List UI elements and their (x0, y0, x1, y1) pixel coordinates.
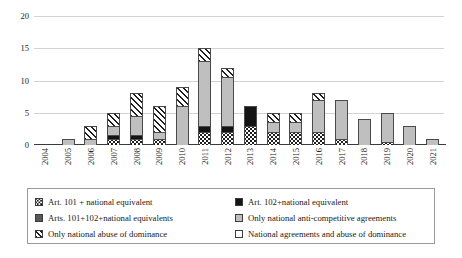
bar-segment (335, 100, 348, 139)
x-tick-slot: 2014 (262, 146, 285, 184)
stacked-bar[interactable] (198, 48, 211, 145)
bar-segment (381, 113, 394, 142)
bar-segment (267, 132, 280, 145)
x-axis-tick-label: 2015 (292, 148, 301, 165)
bar-slot-2012 (216, 16, 239, 145)
bar-segment (153, 132, 166, 138)
stacked-bar[interactable] (107, 113, 120, 145)
bar-segment (84, 126, 97, 139)
stacked-bar[interactable] (130, 93, 143, 145)
bar-segment (289, 113, 302, 123)
bar-slot-2004 (34, 16, 57, 145)
x-tick-slot: 2010 (171, 146, 194, 184)
bar-segment (335, 139, 348, 145)
bar-segment (84, 139, 97, 145)
bar-slot-2006 (80, 16, 103, 145)
legend-label: Only national abuse of dominance (48, 230, 167, 239)
legend-label: Only national anti-competitive agreement… (248, 214, 396, 223)
x-tick-slot: 2018 (353, 146, 376, 184)
legend-label: National agreements and abuse of dominan… (248, 230, 406, 239)
bar-slot-2008 (125, 16, 148, 145)
bar-segment (312, 93, 325, 99)
bar-slot-2015 (285, 16, 308, 145)
x-tick-slot: 2005 (57, 146, 80, 184)
legend-label: Arts. 101+102+national equivalents (48, 214, 173, 223)
stacked-bar[interactable] (403, 126, 416, 145)
bar-segment (198, 126, 211, 132)
bar-segment (107, 139, 120, 145)
legend-label: Art. 102+national equivalent (248, 198, 348, 207)
legend-swatch-gray (235, 214, 243, 222)
bar-slot-2011 (193, 16, 216, 145)
stacked-bar[interactable] (153, 106, 166, 145)
y-axis-tick-label: 15 (21, 44, 30, 53)
x-axis-tick-label: 2017 (337, 148, 346, 165)
x-tick-slot: 2015 (285, 146, 308, 184)
x-axis-tick-label: 2006 (87, 148, 96, 165)
bar-slot-2019 (376, 16, 399, 145)
x-tick-slot: 2019 (376, 146, 399, 184)
bar-segment (198, 48, 211, 61)
y-axis-tick-label: 0 (25, 141, 29, 150)
legend-item[interactable]: Art. 102+national equivalent (235, 198, 428, 207)
legend-swatch-dots (35, 198, 43, 206)
stacked-bar[interactable] (267, 113, 280, 145)
x-axis-tick-label: 2011 (201, 148, 210, 165)
x-axis-tick-label: 2013 (246, 148, 255, 165)
bar-segment (244, 106, 257, 125)
bar-slot-2013 (239, 16, 262, 145)
bar-segment (62, 139, 75, 145)
stacked-bar[interactable] (358, 119, 371, 145)
bar-segment (221, 132, 234, 145)
stacked-bar[interactable] (426, 139, 439, 145)
bar-slot-2005 (57, 16, 80, 145)
x-axis-tick-label: 2008 (132, 148, 141, 165)
chart-legend: Art. 101 + national equivalentArt. 102+n… (27, 188, 435, 244)
bar-segment (289, 122, 302, 132)
bar-slot-2010 (171, 16, 194, 145)
y-axis-tick-label: 10 (21, 76, 30, 85)
bar-segment (153, 106, 166, 132)
legend-item[interactable]: Art. 101 + national equivalent (35, 198, 231, 207)
y-axis-tick-label: 20 (21, 12, 30, 21)
x-axis-tick-label: 2018 (360, 148, 369, 165)
bar-slot-2020 (399, 16, 422, 145)
x-tick-slot: 2017 (330, 146, 353, 184)
stacked-bar[interactable] (176, 87, 189, 145)
stacked-bar[interactable] (62, 139, 75, 145)
x-axis-tick-labels: 2004200520062007200820092010201120122013… (34, 146, 444, 184)
x-axis-tick-label: 2020 (406, 148, 415, 165)
legend-item[interactable]: Arts. 101+102+national equivalents (35, 214, 231, 223)
chart-figure: 05101520 2004200520062007200820092010201… (0, 0, 462, 258)
bar-segment (244, 126, 257, 145)
bar-segment (267, 113, 280, 123)
bar-segment (130, 93, 143, 116)
stacked-bar[interactable] (381, 113, 394, 145)
plot-area: 05101520 (34, 16, 444, 145)
stacked-bar[interactable] (221, 68, 234, 145)
x-tick-slot: 2009 (148, 146, 171, 184)
bar-segment (381, 142, 394, 145)
x-tick-slot: 2008 (125, 146, 148, 184)
bar-slot-2009 (148, 16, 171, 145)
bar-segment (153, 139, 166, 145)
bar-slot-2017 (330, 16, 353, 145)
x-tick-slot: 2004 (34, 146, 57, 184)
stacked-bar[interactable] (244, 106, 257, 145)
stacked-bar[interactable] (335, 100, 348, 145)
stacked-bar[interactable] (312, 93, 325, 145)
x-tick-slot: 2021 (421, 146, 444, 184)
legend-swatch-darkgray (35, 214, 43, 222)
bar-segment (221, 126, 234, 132)
bar-segment (130, 139, 143, 145)
stacked-bar[interactable] (289, 113, 302, 145)
legend-item[interactable]: Only national anti-competitive agreement… (235, 214, 428, 223)
x-tick-slot: 2013 (239, 146, 262, 184)
stacked-bar[interactable] (84, 126, 97, 145)
x-tick-slot: 2007 (102, 146, 125, 184)
legend-item[interactable]: Only national abuse of dominance (35, 230, 231, 239)
bar-slot-2007 (102, 16, 125, 145)
legend-item[interactable]: National agreements and abuse of dominan… (235, 230, 428, 239)
x-axis-tick-label: 2005 (64, 148, 73, 165)
x-tick-slot: 2020 (399, 146, 422, 184)
